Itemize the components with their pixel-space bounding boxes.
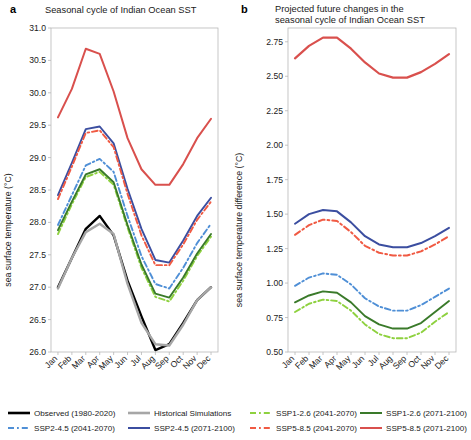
- panel-a-y-axis-title: sea surface temperature (°C): [3, 173, 13, 287]
- legend-label: SSP5-8.5 (2071-2100): [386, 424, 467, 433]
- panel-a-title-line-1: Seasonal cycle of Indian Ocean SST: [45, 5, 197, 15]
- y-tick-label: 29.0: [29, 153, 46, 163]
- legend-label: SSP2-4.5 (2041-2070): [34, 424, 115, 433]
- y-tick-label: 27.0: [29, 282, 46, 292]
- y-tick-label: 2.00: [266, 140, 283, 150]
- legend-label: SSP2-4.5 (2071-2100): [154, 424, 235, 433]
- legend-label: SSP1-2.6 (2041-2070): [276, 409, 357, 418]
- legend-label: Observed (1980-2020): [34, 409, 116, 418]
- y-tick-label: 2.50: [266, 71, 283, 81]
- y-tick-label: 29.5: [29, 120, 46, 130]
- y-tick-label: 1.25: [266, 244, 283, 254]
- y-tick-label: 2.75: [266, 37, 283, 47]
- y-tick-label: 26.0: [29, 347, 46, 357]
- panel-b-y-axis-title: sea surface temperature difference (°C): [234, 153, 244, 308]
- panel-b-letter: b: [241, 3, 248, 15]
- y-tick-label: 0.75: [266, 313, 283, 323]
- y-tick-label: 1.75: [266, 175, 283, 185]
- y-tick-label: 30.5: [29, 55, 46, 65]
- y-tick-label: 28.5: [29, 185, 46, 195]
- panel-a-letter: a: [10, 3, 17, 15]
- legend-label: SSP1-2.6 (2071-2100): [386, 409, 467, 418]
- y-tick-label: 26.5: [29, 315, 46, 325]
- panel-b-title-line-1: Projected future changes in the: [275, 4, 404, 14]
- y-tick-label: 2.25: [266, 106, 283, 116]
- y-tick-label: 27.5: [29, 250, 46, 260]
- panel-b-title-line-2: seasonal cycle of Indian Ocean SST: [275, 15, 425, 25]
- figure-root: a Seasonal cycle of Indian Ocean SST sea…: [0, 0, 471, 440]
- y-tick-label: 0.50: [266, 347, 283, 357]
- legend-label: Historical Simulations: [154, 409, 231, 418]
- y-tick-label: 31.0: [29, 23, 46, 33]
- legend-label: SSP5-8.5 (2041-2070): [276, 424, 357, 433]
- y-tick-label: 1.00: [266, 278, 283, 288]
- y-tick-label: 30.0: [29, 88, 46, 98]
- y-tick-label: 28.0: [29, 217, 46, 227]
- y-tick-label: 1.50: [266, 209, 283, 219]
